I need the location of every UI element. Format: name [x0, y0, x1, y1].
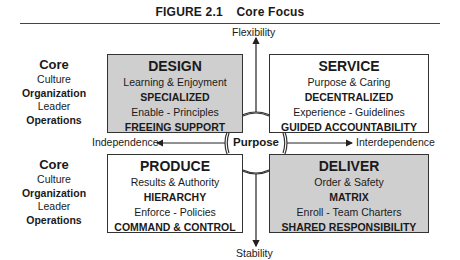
side-legend-top: Core Culture Organization Leader Operati… — [10, 57, 98, 127]
legend-operations: Operations — [10, 114, 98, 128]
legend-leader: Leader — [10, 100, 98, 114]
legend-operations: Operations — [10, 214, 98, 228]
legend-organization: Organization — [10, 187, 98, 201]
legend-core: Core — [10, 157, 98, 173]
legend-culture: Culture — [10, 73, 98, 87]
legend-core: Core — [10, 57, 98, 73]
legend-leader: Leader — [10, 200, 98, 214]
legend-culture: Culture — [10, 173, 98, 187]
center-label-purpose: Purpose — [226, 136, 286, 148]
side-legend-bottom: Core Culture Organization Leader Operati… — [10, 157, 98, 227]
legend-organization: Organization — [10, 87, 98, 101]
